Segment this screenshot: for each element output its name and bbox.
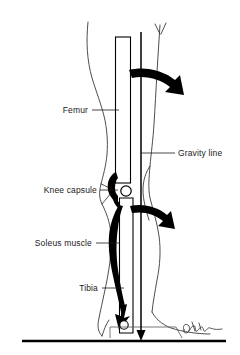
label-tibia: Tibia [79,283,98,293]
ankle-joint-circle [120,321,128,329]
anatomy-diagram-svg: Femur Gravity line Knee capsule Soleus m… [0,0,240,355]
label-femur: Femur [63,105,88,115]
label-soleus-muscle: Soleus muscle [35,238,92,248]
anatomy-figure: Femur Gravity line Knee capsule Soleus m… [0,0,240,355]
label-gravity-line: Gravity line [178,148,222,158]
knee-joint-circle [121,186,131,196]
label-knee-capsule: Knee capsule [44,185,97,195]
